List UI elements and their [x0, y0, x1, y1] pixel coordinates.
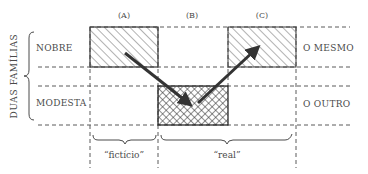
- right-label-o-mesmo: O MESMO: [303, 43, 354, 53]
- column-label-c: (C): [256, 11, 268, 20]
- box-a-nobre: [90, 27, 158, 67]
- two-families-diagram: (A) (B) (C) DUAS FAMÍLIAS NOBRE MODESTA …: [0, 0, 368, 174]
- right-label-o-outro: O OUTRO: [303, 99, 350, 109]
- box-b-modesta: [158, 86, 228, 125]
- label-ficticio: “fictício”: [104, 150, 144, 160]
- row-label-modesta: MODESTA: [36, 98, 87, 108]
- brace-ficticio: [93, 135, 156, 144]
- column-label-a: (A): [118, 11, 130, 20]
- box-c-nobre: [228, 27, 296, 67]
- families-brace: [24, 32, 34, 120]
- side-label-duas-familias: DUAS FAMÍLIAS: [8, 34, 19, 119]
- column-label-b: (B): [186, 11, 198, 20]
- brace-real: [161, 134, 292, 144]
- label-real: “real”: [213, 150, 240, 160]
- row-label-nobre: NOBRE: [36, 43, 73, 53]
